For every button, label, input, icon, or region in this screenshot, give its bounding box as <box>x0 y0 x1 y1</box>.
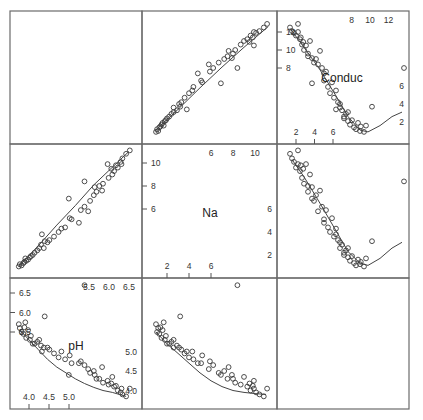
data-point <box>86 209 91 214</box>
data-point <box>40 232 45 237</box>
data-point <box>222 57 227 62</box>
data-point <box>330 216 335 221</box>
data-point <box>252 378 257 383</box>
data-point <box>265 386 270 391</box>
data-point <box>42 314 47 319</box>
tick-label-left: 6.0 <box>19 308 31 318</box>
scatterplot-matrix: Conduc Na pH 246810128101224624668106810… <box>0 0 423 420</box>
data-point <box>364 256 369 261</box>
tick-label-top: 6.5 <box>123 282 135 292</box>
tick-label-right: 4.0 <box>125 386 137 396</box>
data-point <box>208 359 213 364</box>
data-point <box>187 355 192 360</box>
tick-label-left: 8 <box>151 181 156 191</box>
data-point <box>219 81 224 86</box>
data-point <box>226 49 231 54</box>
data-point <box>322 220 327 225</box>
tick-label-right: 4.5 <box>125 366 137 376</box>
smoother-curve <box>155 27 268 131</box>
data-point <box>178 314 183 319</box>
tick-label-bottom: 6 <box>209 261 214 271</box>
data-point <box>238 382 243 387</box>
data-point <box>296 148 301 153</box>
data-point <box>190 349 195 354</box>
data-point <box>334 88 339 93</box>
tick-label-bottom: 2 <box>165 261 170 271</box>
data-point <box>82 363 87 368</box>
tick-label-bottom: 4.5 <box>43 392 55 402</box>
data-point <box>161 320 166 325</box>
data-point <box>358 124 363 129</box>
panel-na-vs-ph <box>288 148 407 269</box>
data-point <box>288 151 293 156</box>
data-point <box>105 162 110 167</box>
data-point <box>206 367 211 372</box>
tick-label-left: 6 <box>151 204 156 214</box>
tick-label-left: 10 <box>151 158 161 168</box>
data-point <box>235 283 240 288</box>
tick-label-right: 6 <box>399 81 404 91</box>
tick-label-left: 10 <box>286 45 296 55</box>
data-point <box>402 179 407 184</box>
data-point <box>91 193 96 198</box>
data-point <box>195 71 200 76</box>
data-point <box>306 189 311 194</box>
tick-label-top: 8 <box>231 148 236 158</box>
data-point <box>88 199 93 204</box>
data-point <box>187 91 192 96</box>
tick-label-right: 6 <box>267 204 272 214</box>
tick-label-right: 5.0 <box>125 347 137 357</box>
data-point <box>370 239 375 244</box>
tick-label-bottom: 5.0 <box>63 392 75 402</box>
data-point <box>242 375 247 380</box>
panel-frame <box>142 278 277 409</box>
tick-label-right: 2 <box>267 250 272 260</box>
data-point <box>308 172 313 177</box>
data-point <box>77 220 82 225</box>
tick-label-left: 6.5 <box>19 288 31 298</box>
data-point <box>318 188 323 193</box>
smoother-curve <box>292 160 402 266</box>
variable-label-ph: pH <box>68 339 83 353</box>
data-point <box>23 320 28 325</box>
data-point <box>328 91 333 96</box>
tick-label-left: 5.5 <box>19 327 31 337</box>
variable-label-conduc: Conduc <box>321 71 362 85</box>
data-point <box>154 322 159 327</box>
data-point <box>182 95 187 100</box>
data-point <box>316 209 321 214</box>
panel-frame <box>277 278 409 409</box>
data-point <box>69 361 74 366</box>
data-point <box>100 365 105 370</box>
tick-label-top: 12 <box>384 15 394 25</box>
data-point <box>304 162 309 167</box>
data-point <box>252 43 257 48</box>
data-point <box>310 81 315 86</box>
panel-conduc-vs-na <box>154 22 270 135</box>
panel-na-vs-conduc <box>16 148 132 269</box>
data-point <box>78 208 83 213</box>
data-point <box>101 380 106 385</box>
tick-label-bottom: 4 <box>187 261 192 271</box>
data-point <box>52 351 57 356</box>
tick-label-top: 6 <box>209 148 214 158</box>
data-point <box>225 376 230 381</box>
data-point <box>100 188 105 193</box>
tick-label-top: 6.0 <box>103 282 115 292</box>
data-point <box>370 104 375 109</box>
data-point <box>216 60 221 65</box>
tick-label-top: 5.5 <box>83 282 95 292</box>
tick-label-bottom: 6 <box>331 127 336 137</box>
data-point <box>364 123 369 128</box>
data-point <box>67 353 72 358</box>
data-point <box>308 39 313 44</box>
data-point <box>334 107 339 112</box>
data-point <box>206 62 211 67</box>
data-point <box>318 49 323 54</box>
tick-label-top: 10 <box>365 15 375 25</box>
data-point <box>265 22 270 27</box>
data-point <box>195 361 200 366</box>
tick-label-right: 4 <box>267 227 272 237</box>
data-point <box>110 375 115 380</box>
tick-label-left: 12 <box>286 27 296 37</box>
